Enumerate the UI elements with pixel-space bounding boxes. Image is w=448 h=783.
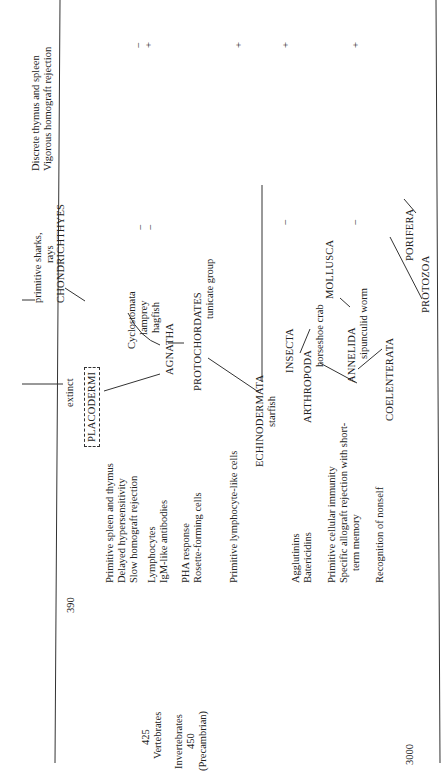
feature-rosette-cells: Rosette-forming cells [192, 492, 204, 583]
taxon-insecta: INSECTA [284, 328, 296, 373]
timeline-390: 390 [65, 597, 77, 613]
mark-minus-4: − [280, 219, 292, 225]
feature-vigorous-homograft: Vigorous homograft rejection [42, 47, 54, 171]
taxon-agnatha: AGNATHA [164, 323, 176, 375]
mark-plus-1: + [143, 42, 155, 48]
mark-plus-3: + [280, 42, 292, 48]
taxon-tunicate-group: tunicate group [204, 259, 216, 319]
taxon-annelida: ANNELIDA [346, 327, 358, 383]
taxon-starfish: starfish [266, 396, 278, 427]
feature-term-memory: term memory [350, 514, 362, 571]
timeline-3000: 3000 [404, 744, 416, 765]
mark-plus-2: + [233, 42, 245, 48]
taxon-placodermi: PLACODERMI [84, 367, 100, 447]
timeline-vertebrates-label: Vertebrates [152, 712, 164, 759]
feature-delayed-hypersensitivity: Delayed hypersensitivity [116, 478, 128, 583]
mark-minus-3: − [145, 224, 157, 230]
timeline-425: 425 [140, 729, 152, 745]
feature-primitive-lymphocyte-like: Primitive lymphocyte-like cells [228, 451, 240, 583]
feature-specific-allograft: Specific allograft rejection with short- [338, 423, 350, 583]
taxon-extinct: extinct [64, 378, 76, 407]
feature-pha-response: PHA response [180, 523, 192, 583]
taxon-protozoa: PROTOZOA [420, 256, 432, 313]
taxon-primitive-sharks: primitive sharks, [32, 232, 44, 303]
taxon-coelenterata: COELENTERATA [384, 338, 396, 421]
taxon-porifera: PORIFERA [404, 209, 416, 261]
taxon-horseshoe-crab: horseshoe crab [314, 304, 326, 367]
taxon-cyclostomata: Cyclostomata [126, 291, 138, 349]
taxon-echinodermata: ECHINODERMATA [254, 375, 266, 467]
timeline-precambrian-label: (Precambrian) [197, 711, 209, 771]
feature-slow-homograft: Slow homograft rejection [128, 476, 140, 583]
feature-igm-antibodies: IgM-like antibodies [158, 500, 170, 583]
feature-lymphocytes: Lymphocytes [146, 526, 158, 583]
feature-recognition-nonself: Recognition of nonself [374, 487, 386, 583]
feature-discrete-thymus: Discrete thymus and spleen [30, 55, 42, 171]
taxon-arthropoda: ARTHROPODA [302, 350, 314, 423]
mark-plus-4: + [350, 42, 362, 48]
rotated-phylogeny-figure: 390 425 Vertebrates Invertebrates 450 (P… [0, 0, 448, 783]
timeline-invertebrates-label: Invertebrates [173, 714, 185, 769]
timeline-450: 450 [185, 733, 197, 749]
taxon-mollusca: MOLLUSCA [324, 240, 336, 299]
taxon-chondrichthyes: CHONDRICHTHYES [55, 204, 67, 303]
taxon-protochordates: PROTOCHORDATES [192, 292, 204, 391]
feature-primitive-cellular-immunity: Primitive cellular immunity [326, 466, 338, 583]
taxon-hagfish: hagfish [150, 302, 162, 333]
feature-agglutinins: Agglutinins [290, 533, 302, 583]
feature-batericidins: Batericidins [302, 532, 314, 583]
feature-primitive-spleen: Primitive spleen and thymus [104, 463, 116, 583]
taxon-lamprey: lamprey [138, 301, 150, 335]
mark-minus-5: − [350, 219, 362, 225]
taxon-sipunculid-worm: sipunculid worm [358, 288, 370, 359]
